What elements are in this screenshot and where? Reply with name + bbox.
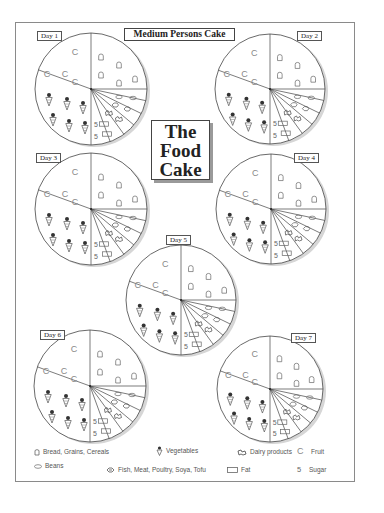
day-label-4: Day 4	[294, 153, 319, 163]
svg-text:C: C	[162, 259, 169, 269]
legend-fat: Fat	[227, 466, 250, 474]
svg-text:C: C	[251, 77, 258, 87]
dairy-icon	[237, 449, 247, 456]
svg-text:C: C	[252, 377, 259, 387]
svg-text:C: C	[44, 69, 51, 79]
svg-text:C: C	[72, 47, 79, 57]
svg-text:5: 5	[94, 121, 98, 128]
svg-text:C: C	[71, 374, 78, 384]
svg-text:C: C	[252, 349, 259, 359]
svg-text:5: 5	[274, 240, 278, 247]
legend-sugar: Sugar	[309, 466, 326, 474]
svg-text:C: C	[152, 280, 159, 290]
bread-icon	[34, 449, 40, 456]
svg-text:C: C	[62, 189, 69, 199]
svg-text:5: 5	[93, 418, 97, 425]
svg-text:5: 5	[184, 343, 188, 350]
pie-day-2: CCCC55	[207, 26, 333, 152]
svg-text:C: C	[252, 168, 259, 178]
svg-text:C: C	[43, 366, 50, 376]
food-cake-word-2: Food	[152, 141, 209, 160]
day-label-3: Day 3	[36, 153, 61, 163]
svg-text:5: 5	[273, 419, 277, 426]
svg-text:5: 5	[94, 241, 98, 248]
legend-fruit: Fruit	[311, 448, 324, 456]
day-label-1: Day 1	[37, 31, 62, 41]
food-cake-word-3: Cake	[152, 160, 209, 179]
legend-sugar-symbol: 5	[297, 466, 301, 474]
legend-beans: Beans	[34, 462, 63, 470]
day-label-6: Day 6	[40, 330, 65, 340]
svg-text:5: 5	[273, 132, 277, 139]
svg-text:5: 5	[94, 253, 98, 260]
legend-dairy: Dairy products	[237, 448, 292, 456]
fish-icon	[106, 467, 115, 473]
svg-text:C: C	[224, 69, 231, 79]
svg-text:C: C	[71, 344, 78, 354]
svg-text:C: C	[225, 370, 232, 380]
fat-icon	[227, 467, 238, 473]
bean-icon	[34, 464, 42, 469]
food-cake-word-1: The	[152, 122, 209, 141]
day-label-2: Day 2	[297, 31, 322, 41]
svg-text:C: C	[242, 370, 249, 380]
svg-text:5: 5	[93, 430, 97, 437]
svg-text:C: C	[252, 197, 259, 207]
food-cake-title: The Food Cake	[151, 120, 210, 180]
pie-day-1: CCCC55	[27, 25, 155, 153]
svg-text:5: 5	[94, 133, 98, 140]
svg-text:C: C	[72, 77, 79, 87]
svg-text:C: C	[242, 189, 249, 199]
pie-day-6: CCCC55	[26, 322, 154, 450]
svg-text:C: C	[61, 366, 68, 376]
svg-text:C: C	[251, 48, 258, 58]
vegetable-icon	[156, 446, 163, 456]
legend-fruit-symbol: C	[297, 447, 304, 455]
day-label-7: Day 7	[291, 333, 316, 343]
svg-text:5: 5	[273, 120, 277, 127]
day-label-5: Day 5	[166, 235, 191, 245]
svg-text:5: 5	[274, 252, 278, 259]
svg-text:C: C	[72, 197, 79, 207]
legend-vegetables: Vegetables	[156, 446, 198, 456]
svg-text:C: C	[62, 69, 69, 79]
svg-text:C: C	[72, 167, 79, 177]
svg-text:C: C	[225, 189, 232, 199]
svg-text:C: C	[241, 69, 248, 79]
svg-text:5: 5	[273, 430, 277, 437]
legend-bread: Bread, Grains, Cereals	[34, 448, 109, 456]
svg-text:C: C	[135, 280, 142, 290]
legend-fish: Fish, Meat, Poultry, Soya, Tofu	[106, 466, 206, 474]
svg-text:C: C	[44, 189, 51, 199]
svg-text:5: 5	[184, 331, 188, 338]
svg-text:C: C	[162, 288, 169, 298]
pie-day-7: CCCC55	[209, 328, 331, 450]
